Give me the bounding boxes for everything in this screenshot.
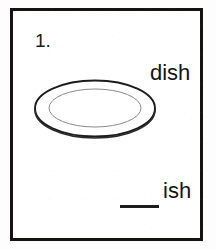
- answer-blank-line[interactable]: [120, 205, 159, 208]
- worksheet-card: 1. dish ish: [0, 0, 216, 250]
- answer-prompt: ish: [118, 180, 208, 214]
- item-frame: 1. dish ish: [10, 8, 203, 241]
- answer-suffix: ish: [163, 180, 191, 202]
- dish-plate-illustration: [31, 74, 163, 146]
- item-number: 1.: [35, 31, 51, 50]
